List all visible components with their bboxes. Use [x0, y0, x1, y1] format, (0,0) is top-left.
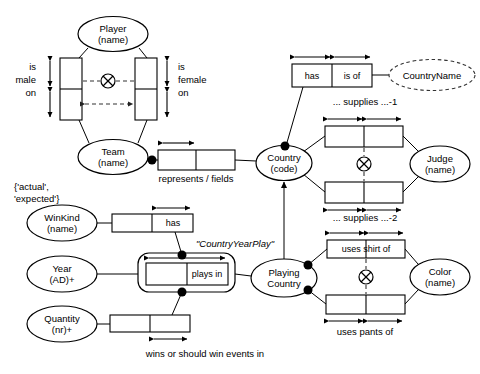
mandatory-dot-team-represents: [148, 156, 157, 165]
exclusion-constraint-player-team: [101, 74, 115, 88]
role-text-winkind-has: has: [166, 218, 181, 229]
mandatory-dot-quantity-plays: [178, 288, 187, 297]
mandatory-dot-pc-pants: [304, 286, 313, 295]
mandatory-dot-country-has: [281, 142, 290, 151]
entity-shapes: [27, 17, 475, 343]
entity-label-quantity: Quantity(nr)+: [44, 313, 79, 335]
entity-label-playingcountry: PlayingCountry: [267, 267, 300, 289]
label-uses-pants-of: uses pants of: [337, 326, 394, 337]
label-country-year-play: "CountryYearPlay": [196, 238, 274, 249]
role-text-uses-shirt-of: uses shirt of: [342, 244, 391, 255]
role-text-plays-in: plays in: [192, 269, 223, 280]
entity-label-judge: Judge(name): [425, 153, 455, 175]
entity-label-countryname: CountryName: [403, 70, 462, 81]
entity-label-country: Country(code): [267, 152, 300, 174]
entity-label-year: Year(AD)+: [49, 263, 74, 285]
label-wins-events: wins or should win events in: [146, 348, 264, 359]
exclusion-constraint-color: [359, 270, 373, 284]
label-is-male-on: ismaleon: [15, 60, 36, 99]
role-text-has: has: [305, 71, 320, 82]
mandatory-dot-winkind-has: [178, 251, 187, 260]
role-text-is-of: is of: [344, 71, 361, 82]
label-value-constraint: {'actual','expected'}: [14, 181, 59, 205]
label-is-female-on: isfemaleon: [178, 60, 207, 99]
orm-diagram-canvas: Player(name) Team(name) CountryName Coun…: [0, 0, 480, 374]
entity-label-player: Player(name): [98, 23, 128, 45]
mandatory-dot-pc-shirt: [304, 261, 313, 270]
entity-label-winkind: WinKind(name): [44, 212, 79, 234]
label-supplies-2: ... supplies ...-2: [333, 212, 397, 223]
entity-label-color: Color(name): [425, 266, 455, 288]
exclusion-constraint-judge: [357, 157, 371, 171]
label-supplies-1: ... supplies ...-1: [333, 96, 397, 107]
entity-label-team: Team(name): [98, 146, 128, 168]
label-represents-fields: represents / fields: [159, 173, 234, 184]
